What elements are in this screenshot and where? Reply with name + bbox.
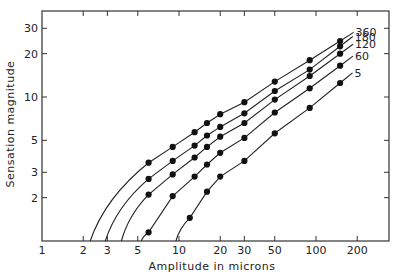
data-point (217, 111, 223, 117)
data-point (337, 38, 343, 44)
y-tick-label: 20 (24, 48, 38, 61)
chart: 123510203050100200 235102030 36018012060… (0, 0, 396, 274)
data-point (337, 43, 343, 49)
data-point (307, 67, 313, 73)
data-point (272, 97, 278, 103)
x-tick-label: 10 (172, 244, 186, 257)
data-point (337, 80, 343, 86)
y-axis-title: Sensation magnitude (4, 61, 17, 188)
y-axis: 235102030 (24, 22, 389, 204)
data-point (272, 130, 278, 136)
series-label-60: 60 (355, 50, 369, 63)
data-point (170, 193, 176, 199)
y-tick-label: 5 (31, 134, 38, 147)
data-point (217, 124, 223, 130)
data-point (170, 158, 176, 164)
y-tick-label: 10 (24, 91, 38, 104)
x-tick-label: 2 (80, 244, 87, 257)
x-tick-label: 3 (104, 244, 111, 257)
series-labels: 360180120605 (355, 26, 377, 80)
data-point (204, 120, 210, 126)
data-point (204, 161, 210, 167)
data-point (170, 144, 176, 150)
data-point (204, 144, 210, 150)
data-point (192, 129, 198, 135)
data-point (307, 85, 313, 91)
data-point (307, 57, 313, 63)
data-point (192, 143, 198, 149)
data-point (241, 158, 247, 164)
data-point (217, 134, 223, 140)
data-point (192, 174, 198, 180)
data-point (217, 150, 223, 156)
data-point (146, 229, 152, 235)
data-point (307, 105, 313, 111)
x-tick-label: 100 (306, 244, 327, 257)
data-point (241, 99, 247, 105)
data-point (146, 192, 152, 198)
data-point (307, 73, 313, 79)
data-point (204, 132, 210, 138)
data-point (337, 63, 343, 69)
data-point (241, 110, 247, 116)
x-tick-label: 200 (347, 244, 368, 257)
data-point (187, 215, 193, 221)
data-point (272, 88, 278, 94)
y-tick-label: 2 (31, 192, 38, 205)
series-curve-180 (105, 37, 352, 242)
data-point (146, 176, 152, 182)
x-tick-label: 1 (39, 244, 46, 257)
series-label-5: 5 (355, 67, 362, 80)
x-axis: 123510203050100200 (39, 11, 368, 257)
curves (90, 32, 353, 241)
x-tick-label: 20 (213, 244, 227, 257)
plot-frame (42, 11, 389, 241)
data-point (272, 109, 278, 115)
data-point (217, 174, 223, 180)
data-point (204, 189, 210, 195)
data-point (241, 120, 247, 126)
x-tick-label: 30 (237, 244, 251, 257)
data-point (272, 79, 278, 85)
x-tick-label: 50 (268, 244, 282, 257)
x-tick-label: 5 (134, 244, 141, 257)
y-tick-label: 30 (24, 22, 38, 35)
x-axis-title: Amplitude in microns (149, 260, 276, 273)
data-point (192, 154, 198, 160)
data-point (170, 171, 176, 177)
data-point (241, 135, 247, 141)
data-point (146, 160, 152, 166)
data-point (337, 51, 343, 57)
y-tick-label: 3 (31, 166, 38, 179)
